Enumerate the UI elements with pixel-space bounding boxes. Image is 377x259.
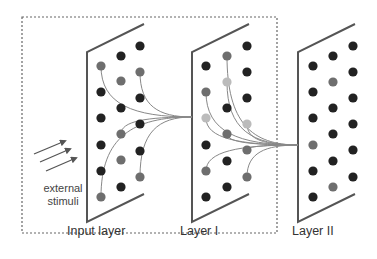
layer-1-node	[201, 113, 210, 122]
layer-2-label: Layer II	[292, 224, 334, 238]
layer-2-node	[308, 166, 317, 175]
input-layer-node	[135, 41, 144, 50]
layer-2-node	[308, 140, 317, 149]
layer1-connection	[206, 145, 298, 171]
input-layer-node	[135, 93, 144, 102]
input-layer-node	[96, 140, 105, 149]
layer-1-node	[222, 156, 231, 165]
layer-1-node	[201, 166, 210, 175]
input-connection	[101, 117, 192, 197]
layer-1-label: Layer I	[180, 224, 218, 238]
layer-2-node	[308, 192, 317, 201]
input-layer-panel	[87, 24, 144, 222]
stimuli-line-2: stimuli	[38, 195, 88, 208]
layer-2-node	[328, 77, 337, 86]
layer-1-node	[201, 140, 210, 149]
input-layer-label: Input layer	[67, 224, 125, 238]
layer-2-node	[308, 113, 317, 122]
layer-1-node	[201, 87, 210, 96]
stimulus-arrow-icon	[40, 149, 70, 162]
input-layer-node	[96, 113, 105, 122]
layer-2-node	[308, 61, 317, 70]
stimuli-line-1: external	[38, 182, 88, 195]
stimulus-arrow-icon	[46, 158, 76, 171]
layer1-connection	[227, 56, 298, 145]
layer-2-node	[348, 119, 357, 128]
layer-1-node	[242, 172, 251, 181]
layer-2-node	[308, 87, 317, 96]
input-layer-node	[135, 119, 144, 128]
layer-1-node	[222, 51, 231, 60]
input-layer-node	[116, 51, 125, 60]
layer-1-node	[201, 192, 210, 201]
input-layer-node	[116, 103, 125, 112]
layer-1-node	[242, 119, 251, 128]
layer-2-node	[328, 103, 337, 112]
layer-1-node	[201, 61, 210, 70]
layer-2-node	[328, 51, 337, 60]
input-layer-node	[116, 76, 125, 85]
layer-2-node	[348, 145, 357, 154]
layer-1-node	[222, 77, 231, 86]
layer-1-node	[242, 145, 251, 154]
stimuli-arrows-icon	[34, 141, 76, 171]
input-connection	[121, 117, 192, 134]
connection-curves	[101, 56, 298, 197]
layer-1-node	[222, 129, 231, 138]
external-stimuli-label: external stimuli	[38, 182, 88, 208]
layer-2-node	[328, 156, 337, 165]
input-layer-node	[135, 146, 144, 155]
input-layer-node	[116, 182, 125, 191]
input-layer-node	[96, 61, 105, 70]
layer-2-panel	[298, 24, 355, 222]
input-layer-node	[135, 172, 144, 181]
layer-2-node	[328, 182, 337, 191]
layer-1-node	[242, 41, 251, 50]
layer-2-node	[348, 172, 357, 181]
input-layer-node	[96, 166, 105, 175]
layer1-connection	[247, 145, 298, 177]
layer-1-node	[242, 67, 251, 76]
input-layer-node	[96, 87, 105, 96]
layer-1-panel	[192, 24, 249, 222]
network-diagram	[0, 0, 377, 259]
layer-1-node	[222, 182, 231, 191]
input-connection	[140, 117, 192, 177]
input-connection	[140, 72, 192, 117]
layer-panels	[87, 24, 355, 222]
layer-2-node	[328, 129, 337, 138]
input-connection	[101, 66, 192, 117]
input-layer-node	[116, 155, 125, 164]
layer1-connection	[206, 92, 298, 145]
layer-1-node	[222, 103, 231, 112]
stimulus-arrow-icon	[34, 141, 65, 154]
layer-2-node	[348, 67, 357, 76]
input-layer-node	[135, 67, 144, 76]
layer-2-node	[348, 41, 357, 50]
layer-1-node	[242, 93, 251, 102]
input-layer-node	[96, 192, 105, 201]
input-layer-node	[116, 129, 125, 138]
layer-2-node	[348, 93, 357, 102]
